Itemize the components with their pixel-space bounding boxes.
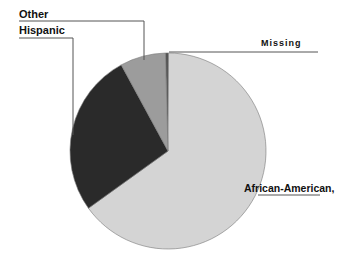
label-african-american: African-American, — [244, 183, 334, 194]
label-hispanic: Hispanic — [19, 25, 65, 36]
pie-slices — [70, 53, 266, 249]
label-missing: Missing — [261, 39, 302, 48]
label-other: Other — [19, 9, 48, 20]
leader-line-hispanic — [19, 38, 73, 135]
